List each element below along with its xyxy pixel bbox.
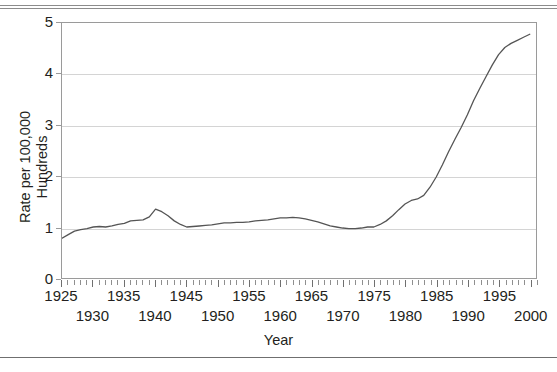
x-tick-1953	[236, 280, 237, 285]
x-tick-1993	[487, 280, 488, 285]
x-tick-1980	[405, 280, 406, 287]
y-tick-label-0: 0	[45, 271, 53, 286]
x-tick-1966	[318, 280, 319, 285]
x-tick-1973	[362, 280, 363, 285]
x-tick-1937	[136, 280, 137, 285]
x-tick-1981	[412, 280, 413, 285]
x-axis-tick-labels-row1: 19251935194519551965197519851995	[0, 288, 557, 306]
x-tick-1983	[424, 280, 425, 285]
x-tick-1974	[368, 280, 369, 285]
x-tick-1987	[449, 280, 450, 285]
plot-area	[61, 22, 537, 279]
x-tick-1951	[224, 280, 225, 285]
x-tick-1988	[456, 280, 457, 285]
y-tick-label-5: 5	[45, 14, 53, 29]
x-tick-1929	[86, 280, 87, 285]
x-tick-1934	[117, 280, 118, 285]
x-tick-1945	[186, 280, 187, 287]
x-tick-1964	[305, 280, 306, 285]
x-tick-1969	[337, 280, 338, 285]
x-tick-1992	[481, 280, 482, 285]
x-tick-1960	[280, 280, 281, 287]
x-tick-1956	[255, 280, 256, 285]
x-tick-1930	[92, 280, 93, 287]
x-tick-1954	[243, 280, 244, 285]
x-tick-1985	[437, 280, 438, 287]
x-tick-1963	[299, 280, 300, 285]
x-tick-1971	[349, 280, 350, 285]
x-tick-1965	[312, 280, 313, 287]
x-axis-tick-marks	[61, 280, 537, 287]
x-tick-1928	[80, 280, 81, 285]
x-tick-1948	[205, 280, 206, 285]
x-tick-label-1965: 1965	[295, 288, 328, 304]
x-tick-1952	[230, 280, 231, 285]
x-tick-label-1995: 1995	[483, 288, 516, 304]
x-tick-1962	[293, 280, 294, 285]
x-tick-1946	[193, 280, 194, 285]
x-tick-1979	[399, 280, 400, 285]
x-axis-tick-labels-row2: 19301940195019601970198019902000	[0, 308, 557, 326]
x-tick-1950	[218, 280, 219, 287]
x-tick-1976	[380, 280, 381, 285]
line-chart-figure: 012345 Rate per 100,000 Hundreds 1925193…	[0, 0, 557, 372]
x-tick-1939	[149, 280, 150, 285]
x-tick-1957	[261, 280, 262, 285]
x-tick-label-1980: 1980	[389, 308, 422, 324]
x-tick-1990	[468, 280, 469, 287]
x-tick-label-1940: 1940	[138, 308, 171, 324]
x-tick-1925	[61, 280, 62, 287]
x-tick-1982	[418, 280, 419, 285]
x-tick-label-2000: 2000	[514, 308, 547, 324]
x-tick-1986	[443, 280, 444, 285]
y-axis-title: Rate per 100,000 Hundreds	[17, 67, 51, 267]
x-tick-label-1990: 1990	[451, 308, 484, 324]
x-tick-1931	[99, 280, 100, 285]
x-tick-1978	[393, 280, 394, 285]
x-tick-1977	[387, 280, 388, 285]
x-tick-1936	[130, 280, 131, 285]
x-tick-1958	[268, 280, 269, 285]
x-tick-1989	[462, 280, 463, 285]
data-series-line	[62, 23, 536, 278]
x-tick-1972	[355, 280, 356, 285]
x-tick-1999	[524, 280, 525, 285]
x-tick-1941	[161, 280, 162, 285]
x-tick-2000	[531, 280, 532, 287]
x-tick-1944	[180, 280, 181, 285]
x-tick-1959	[274, 280, 275, 285]
x-tick-1932	[105, 280, 106, 285]
x-tick-1996	[506, 280, 507, 285]
x-tick-label-1945: 1945	[170, 288, 203, 304]
x-tick-1943	[174, 280, 175, 285]
x-tick-1933	[111, 280, 112, 285]
x-tick-1938	[142, 280, 143, 285]
x-tick-1961	[286, 280, 287, 285]
x-tick-label-1970: 1970	[326, 308, 359, 324]
x-tick-1997	[512, 280, 513, 285]
x-tick-label-1925: 1925	[44, 288, 77, 304]
x-tick-1947	[199, 280, 200, 285]
x-tick-1955	[249, 280, 250, 287]
x-tick-1942	[167, 280, 168, 285]
x-tick-1991	[474, 280, 475, 285]
x-tick-label-1930: 1930	[76, 308, 109, 324]
x-tick-1940	[155, 280, 156, 287]
x-tick-label-1975: 1975	[357, 288, 390, 304]
x-axis-title: Year	[0, 332, 557, 349]
x-tick-1994	[493, 280, 494, 285]
x-tick-1984	[431, 280, 432, 285]
x-tick-1970	[343, 280, 344, 287]
x-tick-1927	[74, 280, 75, 285]
x-tick-1998	[518, 280, 519, 285]
x-tick-1995	[499, 280, 500, 287]
x-tick-1968	[330, 280, 331, 285]
x-tick-label-1955: 1955	[232, 288, 265, 304]
x-tick-1949	[211, 280, 212, 285]
x-tick-label-1950: 1950	[201, 308, 234, 324]
x-tick-1967	[324, 280, 325, 285]
x-tick-2001	[537, 280, 538, 285]
x-tick-1926	[67, 280, 68, 285]
x-tick-label-1985: 1985	[420, 288, 453, 304]
x-tick-label-1935: 1935	[107, 288, 140, 304]
